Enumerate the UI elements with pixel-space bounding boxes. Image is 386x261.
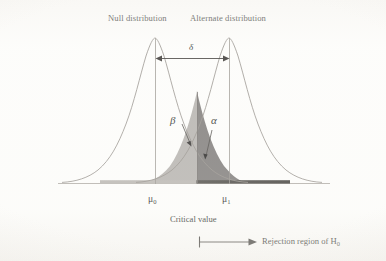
beta-shaded-region bbox=[136, 90, 197, 183]
null-distribution-title: Null distribution bbox=[108, 14, 167, 23]
alpha-label: α bbox=[211, 115, 217, 126]
mu1-tick-label: μ1 bbox=[222, 194, 230, 204]
rejection-region-caption: Rejection region of H0 bbox=[262, 237, 340, 246]
alpha-shaded-region bbox=[197, 90, 250, 183]
figure-root: Null distribution Alternate distribution… bbox=[0, 0, 386, 261]
mu1-subscript: 1 bbox=[227, 198, 230, 205]
alternate-distribution-title: Alternate distribution bbox=[190, 14, 266, 23]
beta-label: β bbox=[170, 115, 175, 126]
mu0-tick-label: μ0 bbox=[148, 194, 156, 204]
rejection-region-arrow bbox=[200, 237, 258, 248]
critical-value-caption: Critical value bbox=[170, 215, 217, 224]
mu0-subscript: 0 bbox=[153, 198, 156, 205]
baseline-bar bbox=[100, 180, 290, 183]
rejection-region-subscript: 0 bbox=[337, 240, 340, 247]
alternate-distribution-curve bbox=[136, 38, 322, 182]
delta-label: δ bbox=[189, 43, 193, 52]
rejection-region-text: Rejection region of H bbox=[262, 236, 337, 246]
